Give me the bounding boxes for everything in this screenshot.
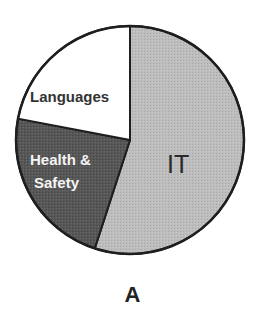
slice-label-health-line1: Health &	[30, 148, 91, 171]
panel-label: A	[0, 282, 265, 308]
slice-label-health-safety: Health & Safety	[30, 148, 91, 194]
slice-label-languages: Languages	[30, 89, 109, 106]
slice-label-it: IT	[167, 151, 189, 179]
slice-label-health-line2: Safety	[30, 171, 91, 194]
